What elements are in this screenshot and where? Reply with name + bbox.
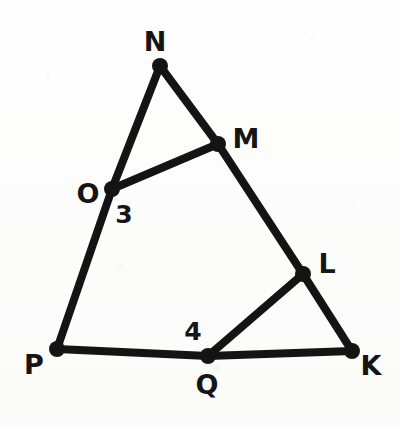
vertex-label-k: K bbox=[361, 352, 382, 379]
vertex-label-m: M bbox=[233, 125, 260, 152]
segment-p-q bbox=[57, 349, 208, 356]
vertex-label-l: L bbox=[318, 250, 335, 277]
angle-4-label: 4 bbox=[184, 319, 201, 344]
vertex-layer bbox=[49, 58, 360, 364]
angle-3-label: 3 bbox=[115, 202, 132, 227]
vertex-dot-q bbox=[200, 348, 216, 364]
vertex-dot-m bbox=[210, 136, 226, 152]
vertex-dot-l bbox=[295, 266, 311, 282]
vertex-label-q: Q bbox=[196, 371, 219, 398]
segment-n-m bbox=[160, 66, 218, 144]
geometry-figure bbox=[0, 0, 400, 428]
vertex-label-p: P bbox=[24, 351, 44, 378]
vertex-dot-k bbox=[344, 343, 360, 359]
segment-q-k bbox=[208, 351, 352, 356]
segment-m-l bbox=[218, 144, 303, 274]
segment-o-p bbox=[57, 189, 112, 349]
segment-l-k bbox=[303, 274, 352, 351]
vertex-dot-o bbox=[104, 181, 120, 197]
vertex-dot-n bbox=[152, 58, 168, 74]
segment-layer bbox=[57, 66, 352, 356]
vertex-label-n: N bbox=[144, 28, 167, 55]
segment-q-l bbox=[208, 274, 303, 356]
vertex-label-o: O bbox=[77, 180, 100, 207]
diagram-canvas: NMOLPQK34 bbox=[0, 0, 400, 428]
vertex-dot-p bbox=[49, 341, 65, 357]
